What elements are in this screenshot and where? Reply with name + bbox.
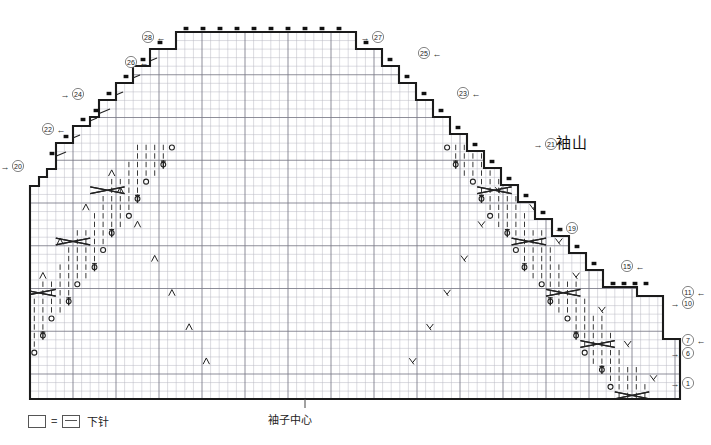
row-number-marker: →27 [361, 31, 384, 43]
svg-text:6: 6 [686, 350, 690, 357]
legend-knit-symbol-icon [62, 415, 80, 428]
svg-text:7: 7 [686, 337, 690, 344]
svg-text:←: ← [57, 125, 66, 135]
svg-text:23: 23 [459, 90, 467, 97]
svg-text:←: ← [472, 89, 481, 99]
svg-text:→: → [555, 224, 564, 234]
svg-text:→: → [671, 299, 680, 309]
svg-text:←: ← [697, 288, 706, 298]
svg-text:10: 10 [684, 300, 692, 307]
svg-text:→: → [361, 33, 370, 43]
row-number-marker: →24 [61, 88, 84, 100]
svg-text:28: 28 [144, 34, 152, 41]
svg-text:1: 1 [686, 380, 690, 387]
sleeve-cap-outline [30, 32, 680, 399]
svg-text:27: 27 [374, 34, 382, 41]
svg-text:25: 25 [420, 50, 428, 57]
grid-lines-light [30, 32, 684, 425]
legend-label: 下针 [87, 413, 109, 429]
page-title: 袖山 [556, 131, 588, 152]
svg-text:→: → [671, 349, 680, 359]
svg-text:→: → [534, 140, 543, 150]
svg-text:26: 26 [127, 59, 135, 66]
row-number-marker: →1 [671, 377, 694, 389]
row-number-marker: →20 [1, 160, 24, 172]
row-number-marker-layer: ←28←26→24←22→20→27←25←23→21→19←15←11→10←… [1, 31, 706, 389]
row-number-marker: ←28 [142, 31, 165, 43]
row-number-marker: ←22 [42, 123, 65, 135]
row-number-marker: →21 [534, 138, 557, 150]
svg-text:→: → [61, 90, 70, 100]
svg-text:20: 20 [14, 163, 22, 170]
svg-text:21: 21 [547, 141, 555, 148]
chart-canvas: ←28←26→24←22→20→27←25←23→21→19←15←11→10←… [0, 0, 711, 445]
svg-text:←: ← [157, 33, 166, 43]
row-number-marker: ←15 [621, 260, 644, 272]
legend-empty-cell-icon [28, 415, 46, 428]
row-number-marker: ←7 [682, 334, 705, 346]
svg-text:24: 24 [74, 91, 82, 98]
knitting-chart-page: ←28←26→24←22→20→27←25←23→21→19←15←11→10←… [0, 0, 711, 445]
legend-equals: = [51, 415, 57, 427]
svg-text:→: → [671, 379, 680, 389]
svg-text:←: ← [140, 58, 149, 68]
svg-text:22: 22 [44, 126, 52, 133]
svg-text:←: ← [697, 336, 706, 346]
row-number-marker: ←11 [682, 286, 705, 298]
svg-text:11: 11 [684, 289, 691, 296]
row-number-marker: →10 [671, 297, 694, 309]
svg-text:19: 19 [568, 225, 576, 232]
svg-text:→: → [1, 162, 10, 172]
row-number-marker: ←23 [457, 87, 480, 99]
svg-text:15: 15 [623, 263, 631, 270]
sleeve-center-label: 袖子中心 [268, 411, 312, 427]
row-number-marker: →6 [671, 347, 694, 359]
row-number-marker: →19 [555, 222, 578, 234]
row-number-marker: ←25 [418, 47, 441, 59]
legend: = 下针 [28, 413, 109, 429]
svg-text:←: ← [636, 262, 645, 272]
svg-text:←: ← [433, 49, 442, 59]
